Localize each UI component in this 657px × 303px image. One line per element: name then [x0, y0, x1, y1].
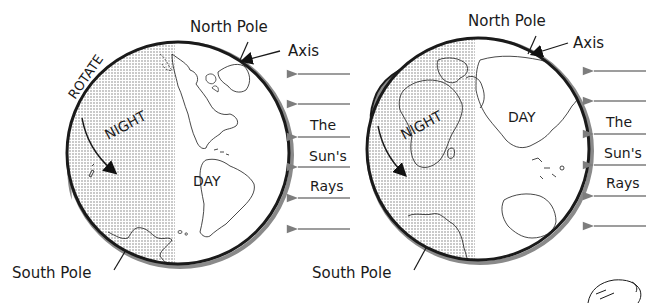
day-night-diagram: ROTATE NIGHT DAY North Pole Axis South P…: [0, 0, 657, 303]
rays-label-suns: Sun's: [309, 148, 347, 164]
corner-sketch: [588, 280, 641, 303]
north-pole-label-left: North Pole: [190, 18, 268, 36]
day-label-right: DAY: [508, 109, 536, 125]
north-pole-pointer-left: [240, 42, 248, 60]
rays-label-the: The: [309, 117, 336, 133]
north-pole-label-right: North Pole: [468, 12, 546, 30]
night-side: [60, 38, 175, 268]
rays-label-suns: Sun's: [604, 145, 642, 161]
axis-label-left: Axis: [288, 42, 319, 60]
south-pole-pointer-right: [414, 248, 426, 270]
axis-arrow-right: [536, 43, 568, 53]
right-globe: NIGHT DAY North Pole Axis South Pole: [312, 12, 604, 282]
south-pole-label-left: South Pole: [12, 264, 91, 282]
rays-label-rays: Rays: [606, 175, 640, 191]
south-pole-pointer-left: [114, 250, 126, 270]
rays-label-the: The: [605, 114, 632, 130]
axis-arrow-left: [246, 51, 280, 60]
south-pole-label-right: South Pole: [312, 264, 391, 282]
rays-label-rays: Rays: [310, 178, 344, 194]
day-label-left: DAY: [193, 173, 221, 189]
left-globe: ROTATE NIGHT DAY North Pole Axis South P…: [12, 18, 319, 282]
axis-label-right: Axis: [573, 34, 604, 52]
